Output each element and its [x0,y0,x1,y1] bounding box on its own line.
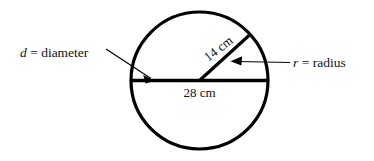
diameter-measure-label: 28 cm [183,85,215,100]
diameter-term: diameter [41,45,89,60]
circle-diagram-canvas: d = diameter r = radius 14 cm 28 cm [0,0,374,161]
circle-diagram: d = diameter r = radius 14 cm 28 cm [0,0,374,161]
diameter-equals: = [27,45,41,60]
radius-callout-label: r = radius [293,55,346,70]
radius-equals: = [298,55,312,70]
radius-term: radius [313,55,346,70]
diameter-callout-label: d = diameter [20,45,89,60]
